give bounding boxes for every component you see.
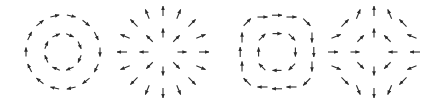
arrow-icon bbox=[52, 67, 59, 70]
arrow-icon bbox=[407, 66, 416, 70]
arrow-icon bbox=[94, 64, 98, 72]
arrow-icon bbox=[196, 34, 205, 38]
arrow-icon bbox=[83, 20, 90, 26]
arrow-icon bbox=[332, 66, 341, 70]
arrow-icon bbox=[52, 34, 59, 37]
arrow-icon bbox=[341, 77, 348, 84]
arrow-icon bbox=[146, 35, 152, 41]
arrow-icon bbox=[244, 78, 251, 85]
vector-field-figure bbox=[0, 0, 440, 105]
panel-radial-source-field bbox=[117, 6, 209, 98]
arrow-icon bbox=[357, 62, 363, 68]
arrow-icon bbox=[145, 85, 149, 94]
arrow-icon bbox=[356, 10, 360, 19]
arrow-icon bbox=[50, 15, 59, 17]
arrow-icon bbox=[188, 77, 195, 84]
arrow-icon bbox=[130, 19, 137, 26]
arrow-icon bbox=[67, 87, 76, 89]
arrow-icon bbox=[303, 19, 310, 26]
arrow-icon bbox=[67, 15, 76, 17]
arrow-icon bbox=[45, 55, 48, 62]
arrow-icon bbox=[388, 85, 392, 94]
arrow-icon bbox=[121, 66, 130, 70]
arrow-icon bbox=[146, 62, 152, 68]
arrow-icon bbox=[356, 85, 360, 94]
arrow-icon bbox=[50, 87, 59, 89]
arrow-icon bbox=[399, 77, 406, 84]
arrow-icon bbox=[145, 10, 149, 19]
arrow-icon bbox=[78, 55, 81, 62]
arrow-icon bbox=[357, 35, 363, 41]
arrow-icon bbox=[177, 10, 181, 19]
arrow-icon bbox=[121, 34, 130, 38]
arrow-icon bbox=[289, 34, 295, 40]
arrow-icon bbox=[66, 34, 73, 37]
arrow-icon bbox=[36, 20, 43, 26]
vector-field-diagram bbox=[0, 0, 440, 105]
arrow-icon bbox=[173, 62, 179, 68]
arrow-icon bbox=[177, 85, 181, 94]
arrow-icon bbox=[407, 34, 416, 38]
arrow-icon bbox=[173, 35, 179, 41]
arrow-icon bbox=[66, 67, 73, 70]
arrow-icon bbox=[259, 34, 265, 40]
arrow-icon bbox=[399, 19, 406, 26]
arrow-icon bbox=[384, 35, 390, 41]
arrow-icon bbox=[78, 41, 81, 48]
arrow-icon bbox=[259, 64, 265, 70]
arrow-icon bbox=[196, 66, 205, 70]
panel-square-rotation-field bbox=[240, 15, 314, 89]
arrow-icon bbox=[384, 62, 390, 68]
arrow-icon bbox=[388, 10, 392, 19]
arrow-icon bbox=[36, 78, 43, 84]
panel-saddle-field bbox=[328, 6, 420, 98]
arrow-icon bbox=[303, 78, 310, 85]
arrow-icon bbox=[83, 78, 90, 84]
arrow-icon bbox=[289, 64, 295, 70]
arrow-icon bbox=[332, 34, 341, 38]
arrow-icon bbox=[341, 19, 348, 26]
arrow-icon bbox=[244, 19, 251, 26]
panel-circular-rotation-field bbox=[26, 15, 100, 89]
arrow-icon bbox=[28, 32, 32, 40]
arrow-icon bbox=[130, 77, 137, 84]
arrow-icon bbox=[28, 64, 32, 72]
arrow-icon bbox=[188, 19, 195, 26]
arrow-icon bbox=[45, 41, 48, 48]
arrow-icon bbox=[94, 32, 98, 40]
